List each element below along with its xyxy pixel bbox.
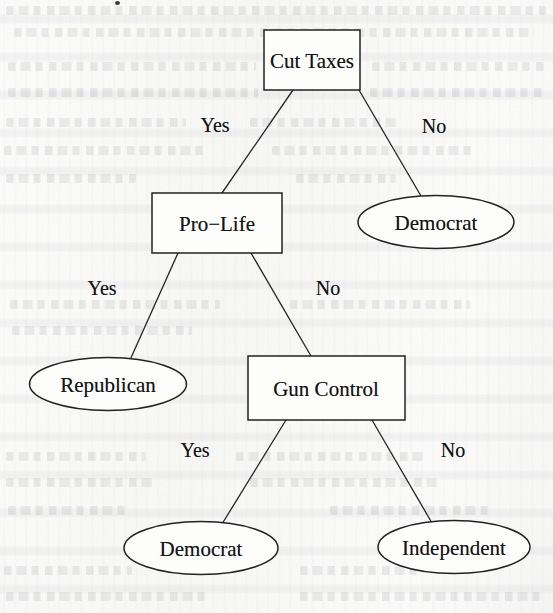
edge-gun-control-no — [372, 420, 432, 523]
edge-gun-control-yes — [222, 420, 286, 524]
node-democrat-right — [358, 196, 514, 249]
edge-cut-taxes-no — [359, 90, 421, 196]
edge-pro-life-yes — [130, 253, 178, 360]
node-independent — [378, 521, 530, 574]
node-democrat-bottom — [124, 522, 278, 575]
tree-edges — [130, 90, 432, 524]
edge-cut-taxes-yes — [222, 90, 293, 193]
node-republican — [30, 358, 187, 411]
node-gun-control — [248, 356, 405, 420]
decision-tree-diagram — [0, 0, 553, 613]
node-cut-taxes — [264, 30, 360, 90]
scanned-page: Cut Taxes Pro−Life Democrat Republican G… — [0, 0, 553, 613]
node-pro-life — [152, 193, 282, 253]
edge-pro-life-no — [251, 253, 311, 356]
